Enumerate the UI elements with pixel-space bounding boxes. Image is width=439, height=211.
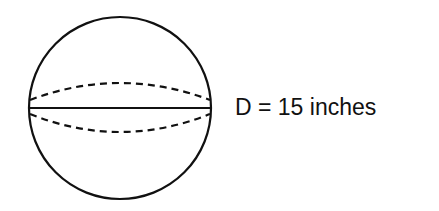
equator-front-dashed — [30, 114, 210, 132]
diameter-label: D = 15 inches — [235, 94, 376, 121]
equator-back-dashed — [30, 83, 210, 100]
